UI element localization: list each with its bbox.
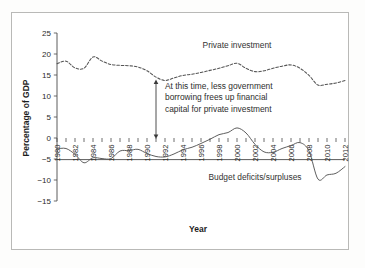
y-tick-label: 5	[47, 113, 52, 122]
x-tick-label: 1996	[197, 145, 206, 162]
x-tick-label: 2010	[323, 145, 332, 162]
x-tick-label: 1994	[179, 145, 188, 162]
x-tick-label: 1992	[161, 145, 170, 162]
x-axis-title: Year	[189, 224, 208, 234]
y-tick-label: −5	[42, 155, 52, 164]
x-tick-label: 1982	[71, 145, 80, 162]
y-tick-label: −15	[37, 197, 51, 206]
x-tick-label: 1988	[125, 145, 134, 162]
annotation-line: borrowing frees up financial	[165, 92, 268, 102]
y-tick-label: 0	[47, 134, 52, 143]
annotation-line: At this time, less government	[165, 81, 273, 91]
y-tick-label: −10	[37, 176, 51, 185]
y-axis-title: Percentage of GDP	[21, 79, 31, 156]
x-tick-label: 1980	[53, 145, 62, 162]
arrow-head-bottom	[154, 135, 159, 139]
series-inline-label: Budget deficits/surpluses	[208, 172, 301, 182]
axes-group	[57, 33, 345, 201]
annotation-text-block: At this time, less governmentborrowing f…	[165, 81, 273, 113]
x-tick-label: 2006	[287, 145, 296, 162]
figure-container: Percentage of GDP Year 2520151050−5−10−1…	[0, 0, 365, 268]
series-inline-label: Private investment	[203, 40, 273, 50]
arrow-head-top	[154, 80, 159, 84]
x-tick-group	[57, 138, 345, 142]
y-tick-label: 15	[42, 71, 51, 80]
y-tick-label: 25	[42, 29, 51, 38]
annotation-arrow	[154, 80, 159, 139]
x-tick-label-group: 1980198219841986198819901992199419961998…	[53, 145, 350, 162]
y-tick-label: 20	[42, 50, 51, 59]
x-tick-label: 1990	[143, 145, 152, 162]
y-tick-label: 10	[42, 92, 51, 101]
x-tick-label: 2012	[341, 145, 350, 162]
chart-svg: Percentage of GDP Year 2520151050−5−10−1…	[0, 0, 365, 268]
x-tick-label: 1998	[215, 145, 224, 162]
x-tick-label: 2000	[233, 145, 242, 162]
y-tick-group: 2520151050−5−10−15	[37, 29, 57, 206]
annotation-line: capital for private investment	[165, 104, 272, 114]
